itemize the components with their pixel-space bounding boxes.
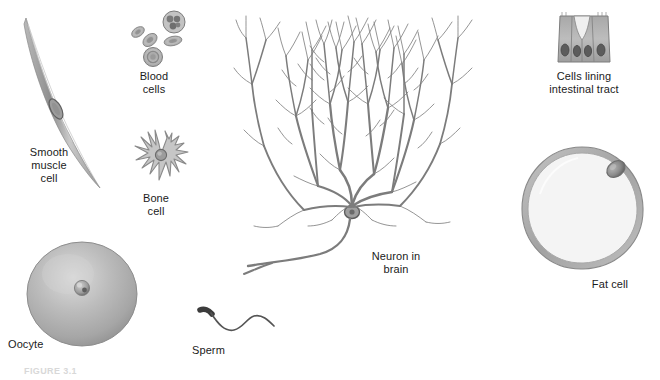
figure-number-caption: FIGURE 3.1 xyxy=(24,366,77,376)
caption-neuron: Neuron in brain xyxy=(350,250,442,276)
caption-smooth-muscle-cell: Smooth muscle cell xyxy=(6,146,92,185)
sperm-illustration xyxy=(192,300,296,342)
caption-fat-cell: Fat cell xyxy=(578,278,642,291)
caption-sperm: Sperm xyxy=(192,344,262,357)
blood-cells-illustration xyxy=(126,8,198,68)
caption-oocyte: Oocyte xyxy=(8,338,88,351)
caption-bone-cell: Bone cell xyxy=(120,192,192,218)
cell-types-figure: Smooth muscle cell xyxy=(0,0,660,380)
neuron-illustration xyxy=(232,4,500,286)
intestinal-lining-cells-illustration xyxy=(552,10,616,68)
oocyte-illustration xyxy=(22,238,146,354)
caption-blood-cells: Blood cells xyxy=(118,70,190,96)
fat-cell-illustration xyxy=(516,142,650,274)
caption-intestinal-lining-cells: Cells lining intestinal tract xyxy=(524,70,644,96)
bone-cell-illustration xyxy=(126,124,196,192)
